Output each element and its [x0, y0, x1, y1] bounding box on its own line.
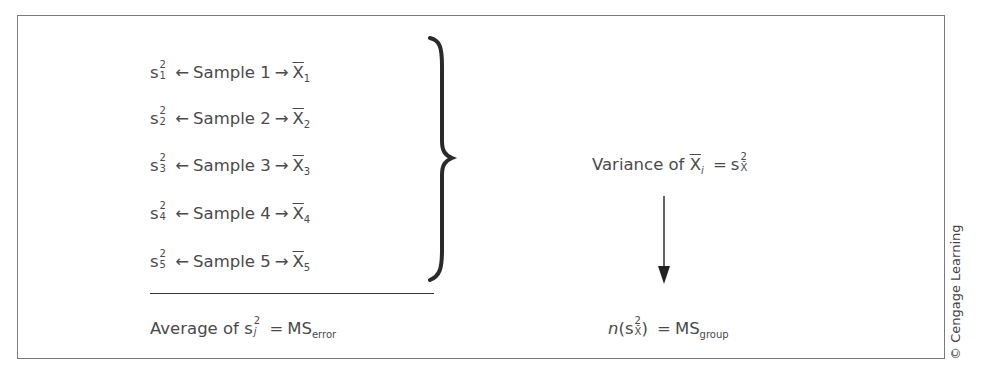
average-formula: Average of s2j =MSerror	[150, 318, 336, 340]
s-script: 2X̄	[740, 151, 747, 173]
subscript: j	[254, 326, 260, 337]
right-arrow-icon: →	[275, 204, 289, 223]
subscript: 3	[160, 163, 166, 174]
s-script: 2X̄	[635, 315, 642, 337]
sample-label: Sample 5	[193, 252, 271, 271]
mean-subscript: i	[701, 165, 704, 176]
subscript: 5	[160, 259, 166, 270]
variance-symbol: s	[150, 204, 159, 223]
close-paren: )	[641, 319, 647, 338]
superscript: 2	[160, 248, 166, 259]
variance-script: 25	[160, 248, 166, 270]
average-prefix: Average of	[150, 319, 239, 338]
variance-script: 2j	[254, 315, 260, 337]
sample-row-4: s24 ←Sample 4→X4	[150, 203, 310, 225]
ms-group-formula: n(s2X̄) =MSgroup	[608, 318, 729, 340]
s-symbol: s	[625, 319, 634, 338]
equals-sign: =	[269, 319, 283, 338]
down-arrow-icon	[656, 196, 672, 284]
sample-row-5: s25 ←Sample 5→X5	[150, 251, 310, 273]
mean-symbol: X	[293, 109, 304, 128]
superscript: 2	[160, 152, 166, 163]
variance-symbol: s	[244, 319, 253, 338]
subscript: 1	[160, 70, 166, 81]
mean-subscript: 2	[304, 119, 310, 130]
subscript: 2	[160, 116, 166, 127]
mean-subscript: 1	[304, 73, 310, 84]
right-brace-icon	[428, 36, 458, 282]
variance-symbol: s	[150, 156, 159, 175]
ms-symbol: MS	[675, 319, 700, 338]
variance-symbol: s	[150, 109, 159, 128]
sample-label: Sample 4	[193, 204, 271, 223]
variance-script: 21	[160, 59, 166, 81]
left-arrow-icon: ←	[175, 156, 189, 175]
right-arrow-icon: →	[275, 156, 289, 175]
superscript: 2	[254, 315, 260, 326]
superscript: 2	[160, 200, 166, 211]
superscript: 2	[160, 105, 166, 116]
sample-label: Sample 1	[193, 63, 271, 82]
variance-prefix: Variance of	[592, 155, 684, 174]
left-arrow-icon: ←	[175, 109, 189, 128]
right-arrow-icon: →	[275, 109, 289, 128]
mean-subscript: 5	[304, 262, 310, 273]
mean-subscript: 3	[304, 166, 310, 177]
right-arrow-icon: →	[275, 63, 289, 82]
left-arrow-icon: ←	[175, 252, 189, 271]
variance-symbol: s	[150, 63, 159, 82]
variance-script: 24	[160, 200, 166, 222]
sample-row-1: s21 ←Sample 1→X1	[150, 62, 310, 84]
mean-symbol: X	[293, 63, 304, 82]
variance-script: 23	[160, 152, 166, 174]
subscript: X̄	[635, 326, 642, 337]
right-arrow-icon: →	[275, 252, 289, 271]
mean-symbol: X	[293, 252, 304, 271]
left-arrow-icon: ←	[175, 63, 189, 82]
subscript: X̄	[740, 162, 747, 173]
variance-of-means-formula: Variance of Xi =s2X̄	[592, 154, 747, 176]
variance-script: 22	[160, 105, 166, 127]
variance-symbol: s	[150, 252, 159, 271]
superscript: 2	[160, 59, 166, 70]
ms-symbol: MS	[287, 319, 312, 338]
equals-sign: =	[657, 319, 671, 338]
superscript: 2	[635, 315, 642, 326]
equals-sign: =	[713, 155, 727, 174]
mean-symbol: X	[690, 155, 701, 174]
sample-row-2: s22 ←Sample 2→X2	[150, 108, 310, 130]
copyright-credit: © Cengage Learning	[948, 225, 963, 360]
left-arrow-icon: ←	[175, 204, 189, 223]
superscript: 2	[740, 151, 747, 162]
s-symbol: s	[731, 155, 740, 174]
sample-row-3: s23 ←Sample 3→X3	[150, 155, 310, 177]
ms-subscript: error	[312, 329, 336, 340]
mean-symbol: X	[293, 156, 304, 175]
ms-subscript: group	[700, 329, 729, 340]
n-symbol: n	[608, 319, 618, 338]
subscript: 4	[160, 211, 166, 222]
sample-label: Sample 3	[193, 156, 271, 175]
mean-subscript: 4	[304, 214, 310, 225]
mean-symbol: X	[293, 204, 304, 223]
divider-line	[150, 293, 434, 294]
sample-label: Sample 2	[193, 109, 271, 128]
